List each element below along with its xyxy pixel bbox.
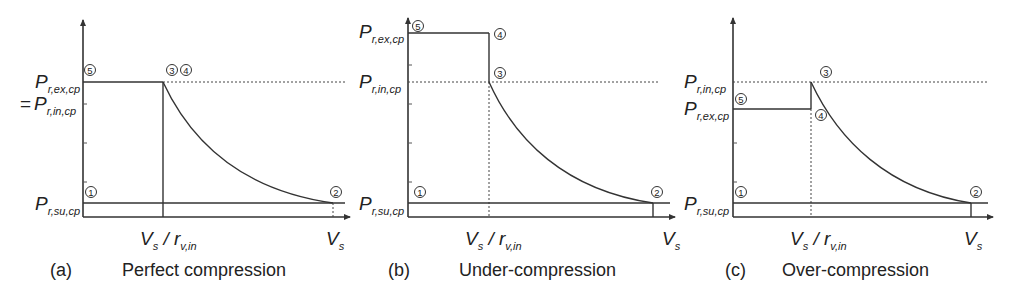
label-p-su: Pr,su,cp xyxy=(35,193,80,217)
panel-c-title: Over-compression xyxy=(782,260,929,280)
panel-b-title: Under-compression xyxy=(459,260,616,280)
panel-b-tag: (b) xyxy=(388,260,410,280)
panel-b: 5 4 3 1 2 Pr,ex,cp Pr,in,cp Pr,su,cp Vs … xyxy=(359,18,681,280)
point-1: 1 xyxy=(415,187,426,198)
svg-text:5: 5 xyxy=(738,94,743,105)
label-p-in: =Pr,in,cp xyxy=(20,93,76,117)
compression-curve xyxy=(811,82,971,203)
point-2: 2 xyxy=(331,187,342,198)
point-5: 5 xyxy=(736,94,747,105)
svg-text:4: 4 xyxy=(183,65,188,76)
point-4: 4 xyxy=(816,110,827,121)
compression-curve xyxy=(489,82,653,203)
panel-a-title: Perfect compression xyxy=(122,260,286,280)
label-vs: Vs xyxy=(662,228,681,252)
compression-curve xyxy=(163,82,333,203)
point-1: 1 xyxy=(736,187,747,198)
svg-text:3: 3 xyxy=(169,65,174,76)
point-3: 3 xyxy=(495,68,506,79)
label-p-su: Pr,su,cp xyxy=(359,193,404,217)
svg-text:3: 3 xyxy=(497,68,502,79)
svg-text:2: 2 xyxy=(654,187,659,198)
label-p-ex: Pr,ex,cp xyxy=(35,71,80,95)
label-p-in: Pr,in,cp xyxy=(684,71,726,95)
label-vs: Vs xyxy=(964,228,983,252)
label-p-ex: Pr,ex,cp xyxy=(359,21,404,45)
svg-text:5: 5 xyxy=(415,21,420,32)
pv-diagram-figure: 5 3 4 1 2 Pr,ex,cp =Pr,in,cp Pr,su,cp Vs… xyxy=(0,0,1012,295)
svg-text:2: 2 xyxy=(333,187,338,198)
point-4: 4 xyxy=(495,29,506,40)
point-4: 4 xyxy=(181,65,192,76)
svg-text:1: 1 xyxy=(417,187,422,198)
point-2: 2 xyxy=(971,187,982,198)
svg-text:1: 1 xyxy=(738,187,743,198)
point-5: 5 xyxy=(85,65,96,76)
label-p-ex: Pr,ex,cp xyxy=(684,98,729,122)
point-1: 1 xyxy=(86,187,97,198)
label-p-in: Pr,in,cp xyxy=(359,71,401,95)
point-5: 5 xyxy=(413,21,424,32)
panel-c: 3 5 4 1 2 Pr,in,cp Pr,ex,cp Pr,su,cp Vs … xyxy=(684,18,993,280)
label-p-su: Pr,su,cp xyxy=(684,193,729,217)
label-vs-over-rvin: Vs / rv,in xyxy=(465,228,522,252)
point-3: 3 xyxy=(167,65,178,76)
panel-a: 5 3 4 1 2 Pr,ex,cp =Pr,in,cp Pr,su,cp Vs… xyxy=(20,20,350,280)
svg-text:4: 4 xyxy=(497,29,502,40)
point-2: 2 xyxy=(652,187,663,198)
svg-text:5: 5 xyxy=(87,65,92,76)
label-vs: Vs xyxy=(326,228,345,252)
svg-text:3: 3 xyxy=(823,67,828,78)
svg-text:1: 1 xyxy=(88,187,93,198)
label-vs-over-rvin: Vs / rv,in xyxy=(140,228,197,252)
label-vs-over-rvin: Vs / rv,in xyxy=(790,228,847,252)
svg-text:4: 4 xyxy=(818,110,823,121)
svg-text:2: 2 xyxy=(973,187,978,198)
point-3: 3 xyxy=(821,67,832,78)
panel-a-tag: (a) xyxy=(50,260,72,280)
panel-c-tag: (c) xyxy=(725,260,746,280)
